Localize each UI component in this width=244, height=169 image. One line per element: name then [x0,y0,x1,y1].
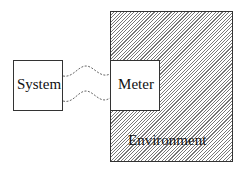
connection-lines [0,0,244,169]
upper-wavy-link [63,66,110,76]
lower-wavy-link [63,91,110,101]
